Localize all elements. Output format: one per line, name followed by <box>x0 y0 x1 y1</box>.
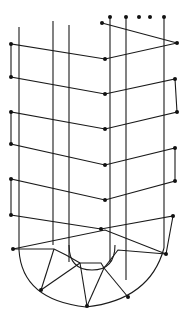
node-dot <box>9 142 13 146</box>
node-dot <box>103 57 107 61</box>
zigzag-line <box>11 23 177 254</box>
outer-u-curve <box>19 248 164 307</box>
node-dot <box>175 110 179 114</box>
node-dot <box>99 227 103 231</box>
node-dot <box>148 15 152 19</box>
node-dot <box>85 304 89 308</box>
bottom-link <box>41 263 80 290</box>
node-dot <box>103 198 107 202</box>
node-dot <box>9 42 13 46</box>
node-dot <box>175 41 179 45</box>
node-dot <box>126 295 130 299</box>
bottom-link <box>41 249 54 290</box>
lattice-diagram <box>0 0 189 317</box>
bottom-link <box>104 268 128 297</box>
node-dot <box>171 214 175 218</box>
node-dot <box>9 177 13 181</box>
node-dot <box>103 163 107 167</box>
node-dot <box>173 179 177 183</box>
node-dot <box>9 213 13 217</box>
node-dot <box>103 127 107 131</box>
node-dot <box>162 15 166 19</box>
bottom-links <box>13 249 166 306</box>
node-dot <box>173 77 177 81</box>
node-dot <box>124 15 128 19</box>
nodes <box>9 15 179 308</box>
node-dot <box>108 15 112 19</box>
bottom-link <box>80 263 104 268</box>
node-dot <box>103 92 107 96</box>
node-dot <box>164 252 168 256</box>
node-dot <box>100 21 104 25</box>
node-dot <box>9 75 13 79</box>
zigzag-path <box>11 23 177 254</box>
node-dot <box>173 146 177 150</box>
node-dot <box>11 247 15 251</box>
node-dot <box>137 15 141 19</box>
node-dot <box>9 110 13 114</box>
node-dot <box>39 288 43 292</box>
bottom-link <box>87 268 104 306</box>
